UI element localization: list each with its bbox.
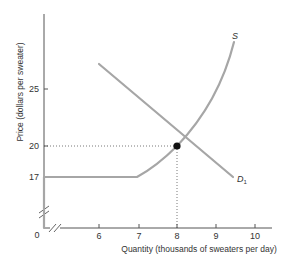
supply-demand-chart: 25 20 17 0 6 7 8 9 10 Price (dollars per… xyxy=(0,0,293,265)
x-axis-break-icon xyxy=(49,224,61,232)
equilibrium-point xyxy=(173,142,180,149)
y-tick-label-20: 20 xyxy=(29,141,39,151)
demand-label: D1 xyxy=(237,174,248,185)
y-tick-label-25: 25 xyxy=(29,84,39,94)
x-tick-label-8: 8 xyxy=(174,231,179,241)
y-tick-label-17: 17 xyxy=(29,172,39,182)
origin-label: 0 xyxy=(34,230,39,240)
supply-label: S xyxy=(232,31,238,41)
x-tick-label-9: 9 xyxy=(213,231,218,241)
y-axis-title: Price (dollars per sweater) xyxy=(15,42,25,141)
supply-curve xyxy=(44,42,234,228)
demand-label-subscript: 1 xyxy=(244,179,248,185)
x-tick-label-6: 6 xyxy=(96,231,101,241)
x-axis-title: Quantity (thousands of sweaters per day) xyxy=(121,244,277,254)
demand-curve xyxy=(99,64,233,177)
x-tick-label-7: 7 xyxy=(136,231,141,241)
x-tick-label-10: 10 xyxy=(250,231,260,241)
